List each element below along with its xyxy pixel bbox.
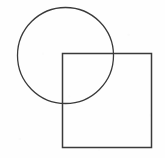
shape-drawing — [0, 0, 165, 158]
figure-canvas — [0, 0, 165, 158]
drawing-background — [0, 0, 165, 158]
